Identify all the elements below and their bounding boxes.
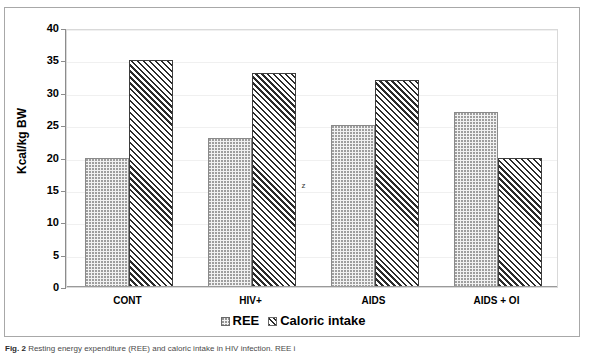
legend-swatch-icon (221, 317, 230, 326)
legend-label: Caloric intake (280, 314, 365, 328)
bar-caloric-intake-aids-oi (498, 158, 542, 288)
y-axis-tick-label: 10 (29, 217, 59, 228)
y-axis-tick-label: 20 (29, 153, 59, 164)
bar-chart: 0510152025303540 Kcal/kg BW z CONTHIV+AI… (5, 8, 581, 338)
bar-caloric-intake-cont (129, 60, 173, 287)
bar-ree-aids (331, 125, 375, 287)
bar-ree-aids-oi (454, 112, 498, 287)
y-axis-tick-mark (61, 61, 66, 62)
legend-swatch-icon (268, 317, 277, 326)
chart-annotation-z: z (302, 182, 306, 190)
figure-caption-label: Fig. 2 (5, 344, 26, 353)
y-axis-tick-mark (61, 223, 66, 224)
y-axis-tick-label: 35 (29, 55, 59, 66)
chart-legend: REECaloric intake (5, 314, 581, 328)
y-axis-tick-mark (61, 94, 66, 95)
plot-area: z (66, 29, 558, 288)
y-axis-tick-label: 40 (29, 23, 59, 34)
x-axis-tick-label: AIDS + OI (435, 295, 558, 307)
y-axis-tick-label: 15 (29, 185, 59, 196)
y-axis-tick-label: 30 (29, 88, 59, 99)
x-axis-tick-label: AIDS (312, 295, 435, 307)
y-axis-tick-label: 25 (29, 120, 59, 131)
x-axis-tick-label: CONT (66, 295, 189, 307)
bar-ree-hiv- (208, 138, 252, 287)
y-axis-tick-mark (61, 29, 66, 30)
y-axis-tick-mark (61, 191, 66, 192)
x-axis-tick-labels: CONTHIV+AIDSAIDS + OI (66, 295, 558, 311)
bar-caloric-intake-aids (375, 80, 419, 287)
bar-caloric-intake-hiv- (252, 73, 296, 287)
y-axis-title: Kcal/kg BW (15, 96, 29, 186)
x-axis-tick-label: HIV+ (189, 295, 312, 307)
x-axis-baseline (67, 286, 557, 287)
y-axis-tick-mark (61, 159, 66, 160)
figure-caption: Fig. 2 Resting energy expenditure (REE) … (5, 344, 585, 354)
gridline (67, 30, 557, 31)
y-axis-tick-label: 0 (29, 282, 59, 293)
figure-frame: 0510152025303540 Kcal/kg BW z CONTHIV+AI… (4, 7, 580, 337)
legend-entry-ree[interactable]: REE (221, 314, 260, 328)
y-axis-tick-mark (61, 256, 66, 257)
y-axis-tick-mark (61, 126, 66, 127)
figure-caption-text: Resting energy expenditure (REE) and cal… (28, 344, 295, 353)
y-axis-tick-label: 5 (29, 250, 59, 261)
legend-entry-caloric-intake[interactable]: Caloric intake (268, 314, 365, 328)
y-axis-tick-mark (61, 288, 66, 289)
legend-label: REE (233, 314, 260, 328)
bar-ree-cont (85, 158, 129, 288)
